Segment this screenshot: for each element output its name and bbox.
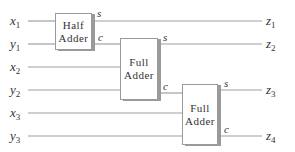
full-adder-block-1: Full Adder: [120, 38, 158, 100]
adder-diagram: Half Adder Full Adder Full Adder s c s c…: [0, 0, 295, 152]
fa2-carry-label: c: [224, 124, 229, 135]
output-z4-label: z4: [266, 129, 276, 147]
input-y3-label: y3: [10, 129, 20, 147]
block-label-line1: Full: [124, 56, 154, 69]
output-z1-label: z1: [266, 14, 276, 32]
output-z3-label: z3: [266, 83, 276, 101]
block-label-line2: Adder: [185, 115, 215, 128]
fa1-carry-label: c: [163, 81, 168, 92]
input-x3-label: x3: [10, 106, 20, 124]
input-x1-label: x1: [10, 14, 20, 32]
block-label-line2: Adder: [124, 69, 154, 82]
ha-carry-label: c: [98, 32, 103, 43]
input-y2-label: y2: [10, 83, 20, 101]
ha-sum-label: s: [97, 8, 101, 19]
block-label-line1: Full: [185, 102, 215, 115]
block-label-line1: Half: [59, 19, 89, 32]
full-adder-block-2: Full Adder: [182, 84, 218, 145]
fa2-sum-label: s: [224, 78, 228, 89]
block-label-line2: Adder: [59, 32, 89, 45]
output-z2-label: z2: [266, 37, 276, 55]
half-adder-block: Half Adder: [55, 13, 92, 50]
fa1-sum-label: s: [163, 32, 167, 43]
input-x2-label: x2: [10, 60, 20, 78]
input-y1-label: y1: [10, 37, 20, 55]
